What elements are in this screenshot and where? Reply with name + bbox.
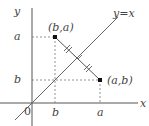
x-axis-label: x <box>140 97 147 110</box>
point-b-a <box>53 35 57 39</box>
reflection-diagram: y x 0 y=x (b,a) (a,b) a b b a <box>0 0 149 126</box>
x-tick-b-label: b <box>52 106 59 119</box>
point-a-b-label: (a,b) <box>107 74 133 87</box>
y-equals-x-label: y=x <box>112 7 135 20</box>
point-b-a-label: (b,a) <box>48 21 74 34</box>
y-tick-a-label: a <box>14 30 21 43</box>
x-tick-a-label: a <box>97 106 104 119</box>
origin-label: 0 <box>24 105 31 118</box>
point-a-b <box>98 78 102 82</box>
y-axis-label: y <box>13 5 21 18</box>
y-tick-b-label: b <box>14 73 21 86</box>
